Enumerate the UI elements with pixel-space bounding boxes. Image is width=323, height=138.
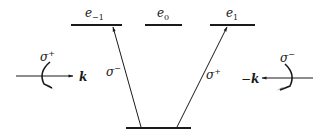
beam-left-polarization: σ+ [40,49,55,64]
beam-left-wavevector: k [79,70,87,84]
beam-right: σ− −k [241,50,313,91]
beam-right-polarization: σ− [280,50,295,65]
transition-sigma-minus-label: σ− [106,64,121,79]
level-e0-label: e0 [157,6,169,22]
level-e1: e1 [210,6,255,25]
transition-sigma-minus: σ− [106,27,141,127]
beam-right-wavevector: −k [241,72,259,86]
beam-left: σ+ k [16,49,87,90]
rotation-arrow-icon [42,62,52,88]
level-diagram: e−1 e0 e1 σ− σ+ σ+ k σ− −k [0,0,323,138]
level-e-minus1-label: e−1 [85,6,104,22]
transition-sigma-plus-label: σ+ [206,67,221,82]
level-e0: e0 [145,6,182,25]
rotation-arrow-icon [280,64,292,90]
transition-sigma-plus: σ+ [177,27,227,127]
level-e1-label: e1 [226,6,238,22]
level-e-minus1: e−1 [71,6,122,25]
